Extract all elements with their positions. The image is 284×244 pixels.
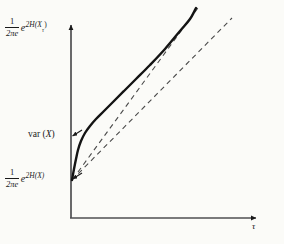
entropy-power-figure: 1 2πe e2H(Xτ) var (X) 1 2πe e2H(X) τ xyxy=(0,0,284,244)
var-close-paren: ) xyxy=(52,129,55,139)
var-tick-marker xyxy=(73,130,83,136)
fraction-top: 1 2πe xyxy=(5,17,19,38)
y-label-top-entropy-power: 1 2πe e2H(Xτ) xyxy=(5,17,47,38)
exponent-close-paren: ) xyxy=(44,20,47,29)
exponent-base: e xyxy=(21,173,25,184)
fraction-numerator: 1 xyxy=(5,168,19,178)
lower-asymptote-line xyxy=(72,18,232,180)
fraction-denominator: 2πe xyxy=(5,178,19,189)
y-label-variance: var (X) xyxy=(28,130,55,140)
fraction-bottom: 1 2πe xyxy=(5,168,19,189)
fraction-numerator: 1 xyxy=(5,17,19,27)
fraction-denominator: 2πe xyxy=(5,27,19,38)
y-label-bottom-entropy-power: 1 2πe e2H(X) xyxy=(5,168,44,189)
exponent-expression: 2H(X) xyxy=(26,171,45,180)
exponent-base: e xyxy=(21,22,25,33)
x-axis-label-tau: τ xyxy=(252,222,255,231)
exponent-expression: 2H(X xyxy=(26,20,42,29)
var-prefix: var xyxy=(28,129,40,139)
